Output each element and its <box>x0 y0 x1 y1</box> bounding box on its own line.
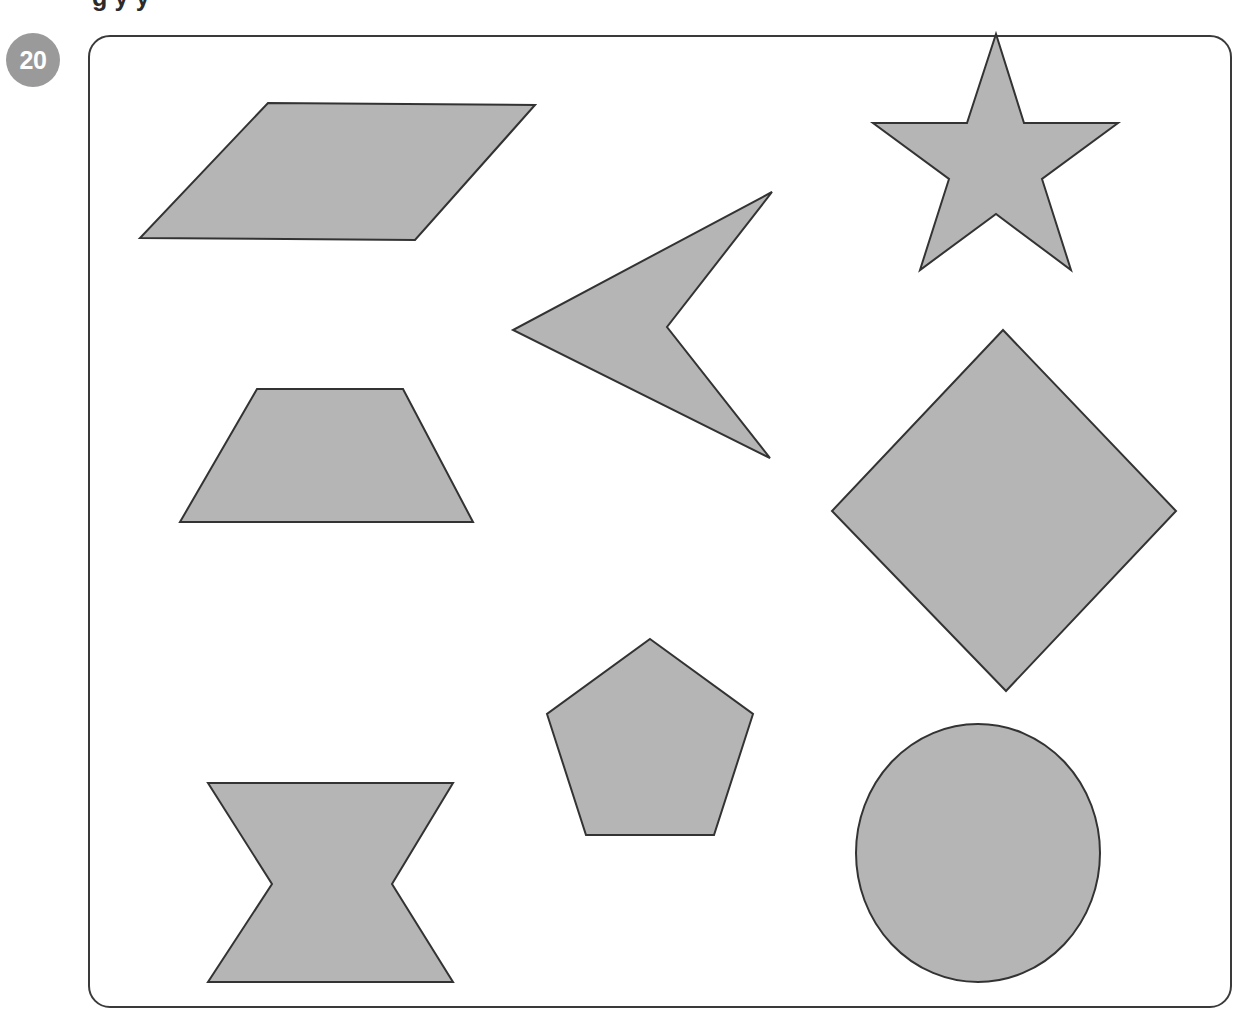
cut-off-heading: g y y <box>92 0 150 12</box>
worksheet-page: g y y 20 ParallelogramFive-pointed starC… <box>0 0 1238 1016</box>
shape-ellipse[interactable]: Ellipse <box>856 724 1100 982</box>
question-number-label: 20 <box>20 48 47 73</box>
question-number-badge: 20 <box>6 33 60 87</box>
